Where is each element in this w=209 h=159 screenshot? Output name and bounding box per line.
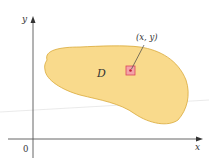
y-axis-arrow-icon: [31, 16, 36, 23]
point-marker: [129, 69, 132, 72]
x-axis-arrow-icon: [196, 137, 203, 142]
x-axis-label: x: [195, 142, 200, 152]
point-label: (x, y): [136, 32, 158, 42]
region-label: D: [96, 67, 106, 80]
origin-label: 0: [23, 144, 28, 154]
diagram-region-d: D (x, y) y x 0: [0, 0, 209, 159]
y-axis-label: y: [21, 14, 28, 24]
region-d-shape: [45, 46, 189, 124]
diagram-canvas: D (x, y) y x 0: [0, 0, 209, 159]
